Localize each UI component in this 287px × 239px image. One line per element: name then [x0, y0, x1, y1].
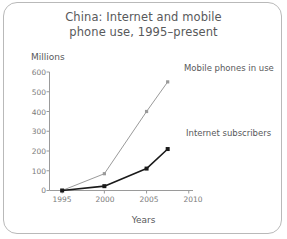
data-point-marker — [103, 172, 106, 175]
series-group — [60, 80, 170, 192]
series-line-mobile-phones — [62, 82, 168, 191]
data-point-marker — [145, 110, 148, 113]
data-point-marker — [145, 167, 149, 171]
plot-area: Millions Years 600 500 400 300 200 100 0… — [0, 0, 287, 239]
data-point-marker — [166, 80, 169, 83]
data-point-marker — [166, 147, 170, 151]
data-point-marker — [102, 184, 106, 188]
chart-figure: China: Internet and mobile phone use, 19… — [0, 0, 287, 239]
plot-svg — [0, 0, 287, 239]
data-point-marker — [60, 189, 64, 193]
axes-group — [47, 72, 194, 194]
